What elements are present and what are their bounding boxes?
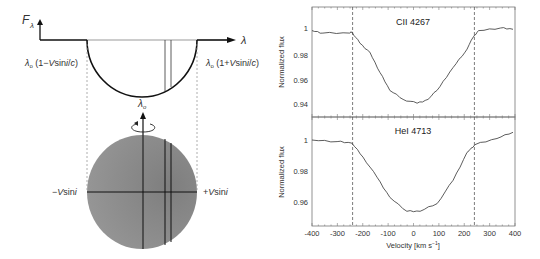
- line-profile-diagram: F λ λ λo (1−Vsini/c) λo (1+Vsini/c) λo: [22, 13, 259, 249]
- wavelength-axis-label: λ: [240, 34, 246, 46]
- bottom-ytick-096: 0.96: [293, 198, 308, 207]
- xtick-300: 300: [483, 229, 496, 238]
- bottom-chart-title: HeI 4713: [395, 126, 432, 136]
- top-ytick-094: 0.94: [293, 100, 308, 109]
- top-ytick-096: 0.96: [293, 76, 308, 85]
- top-chart-title: CII 4267: [396, 17, 430, 27]
- x-minor-ticks: [312, 7, 515, 226]
- left-edge-label: λo (1−Vsini/c): [24, 58, 78, 69]
- xtick-m100: -100: [381, 229, 396, 238]
- xtick-200: 200: [458, 229, 471, 238]
- rotation-arrow-head-icon: [134, 121, 138, 126]
- xtick-m200: -200: [355, 229, 370, 238]
- cii-4267-profile: [312, 28, 513, 104]
- top-ytick-098: 0.98: [293, 51, 308, 60]
- xtick-100: 100: [433, 229, 446, 238]
- bottom-ylabel: Normalized flux: [277, 146, 286, 198]
- flux-axis-subscript: λ: [29, 21, 34, 30]
- xtick-m300: -300: [330, 229, 345, 238]
- xlabel: Velocity [km s−1]: [386, 240, 440, 250]
- hei-4713-profile: [312, 132, 513, 211]
- plus-vsini-label: +Vsini: [203, 187, 229, 197]
- bottom-ytick-1: 1: [304, 136, 308, 145]
- xtick-400: 400: [509, 229, 522, 238]
- up-arrow-head-icon: [37, 19, 43, 25]
- spectral-line-charts: CII 4267 HeI 4713 1 0.98 0.96 0.94 1 0.9…: [277, 7, 521, 250]
- rotational-profile: [87, 40, 197, 97]
- right-edge-label: λo (1+Vsini/c): [205, 58, 259, 69]
- minus-vsini-label: −Vsini: [52, 187, 78, 197]
- bottom-ytick-098: 0.98: [293, 167, 308, 176]
- flux-axis-label: F: [22, 13, 30, 27]
- center-wavelength-label: λo: [137, 98, 147, 110]
- figure-canvas: F λ λ λo (1−Vsini/c) λo (1+Vsini/c) λo: [0, 0, 540, 259]
- right-arrow-icon: [227, 37, 236, 43]
- xtick-m400: -400: [304, 229, 319, 238]
- xtick-0: 0: [411, 229, 415, 238]
- top-ylabel: Normalized flux: [277, 36, 286, 88]
- rotation-axis-arrow-icon: [140, 112, 146, 119]
- top-ytick-1: 1: [304, 24, 308, 33]
